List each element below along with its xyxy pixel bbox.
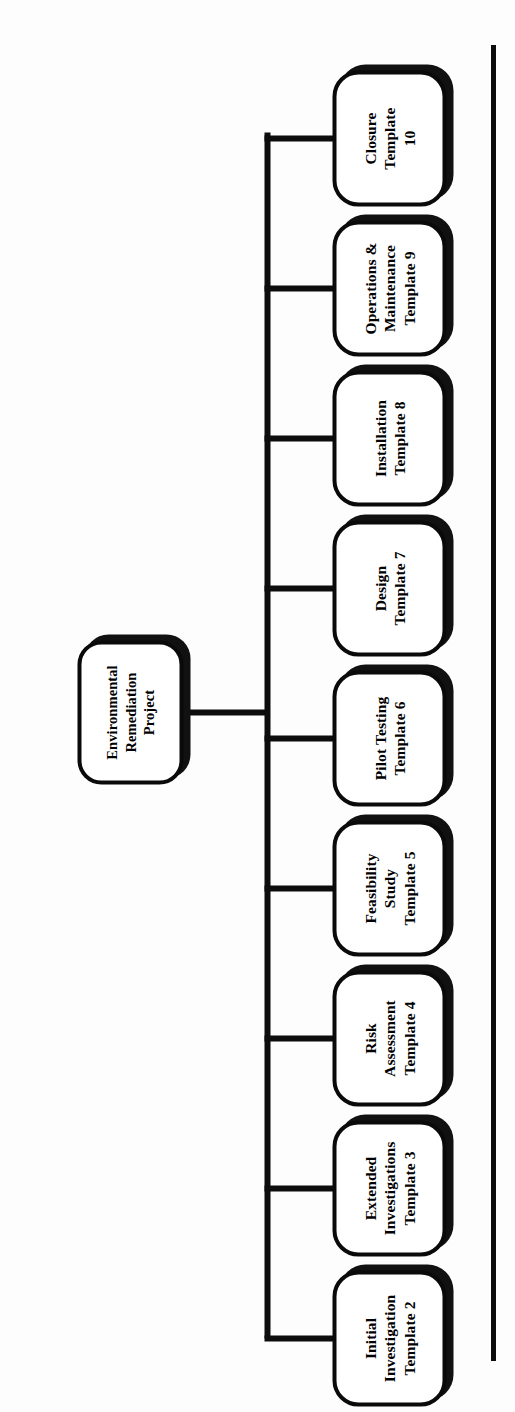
connector-stub-3: [264, 1035, 334, 1041]
node-label: Feasibility Study Template 5: [360, 845, 418, 931]
connector-stub-4: [264, 885, 334, 891]
rotated-diagram-wrapper: Environmental Remediation Project Initia…: [0, 0, 515, 1412]
node-extended-investigations: Extended Investigations Template 3: [332, 1120, 446, 1256]
node-label: Design Template 7: [370, 545, 408, 631]
node-label: Closure Template 10: [360, 101, 418, 175]
connector-stub-7: [264, 435, 334, 441]
node-feasibility-study: Feasibility Study Template 5: [332, 820, 446, 956]
connector-stub-6: [264, 585, 334, 591]
node-operations-maintenance: Operations & Maintenance Template 9: [332, 220, 446, 356]
page-margin-rule: [491, 45, 496, 1361]
scanned-page: Environmental Remediation Project Initia…: [0, 0, 515, 1412]
diagram-canvas: Environmental Remediation Project Initia…: [0, 0, 515, 1412]
node-label: Risk Assessment Template 4: [360, 994, 418, 1083]
connector-stub-9: [264, 135, 334, 141]
connector-stub-5: [264, 735, 334, 741]
node-label: Installation Template 8: [370, 394, 408, 483]
node-risk-assessment: Risk Assessment Template 4: [332, 970, 446, 1106]
node-installation: Installation Template 8: [332, 370, 446, 506]
node-label: Environmental Remediation Project: [102, 659, 159, 766]
node-closure: Closure Template 10: [332, 70, 446, 206]
connector-stub-8: [264, 285, 334, 291]
node-pilot-testing: Pilot Testing Template 6: [332, 670, 446, 806]
node-label: Extended Investigations Template 3: [360, 1135, 418, 1241]
node-label: Initial Investigation Template 2: [360, 1288, 418, 1387]
node-environmental-remediation-project: Environmental Remediation Project: [77, 640, 183, 784]
connector-stub-1: [264, 1335, 334, 1341]
node-label: Pilot Testing Template 6: [370, 690, 408, 786]
connector-stub-2: [264, 1185, 334, 1191]
connector-root-drop: [183, 709, 267, 715]
node-initial-investigation: Initial Investigation Template 2: [332, 1270, 446, 1406]
node-design: Design Template 7: [332, 520, 446, 656]
node-label: Operations & Maintenance Template 9: [360, 236, 418, 340]
